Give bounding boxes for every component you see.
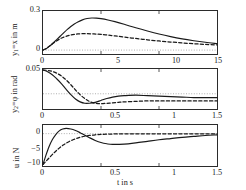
y-tick-bottom-0: 0 xyxy=(16,127,40,136)
y-tick-top-1: 0.3 xyxy=(16,5,40,14)
y-tick-bottom-1: −5 xyxy=(14,144,40,153)
plot-frame-bottom xyxy=(42,124,218,167)
y-axis-label-top-unit: in m xyxy=(10,23,19,38)
x-tick-middle-3: 1.5 xyxy=(204,111,230,120)
plot-canvas-middle xyxy=(43,69,217,109)
x-tick-top-2: 10 xyxy=(168,56,184,65)
y-axis-label-middle-symbol: y xyxy=(10,109,19,113)
y-axis-label-middle: y2=φ in rad xyxy=(10,76,19,113)
x-tick-middle-1: 0.5 xyxy=(102,111,128,120)
plot-frame-top xyxy=(42,10,218,55)
x-tick-bottom-3: 1.5 xyxy=(204,168,230,177)
x-tick-bottom-0: 0 xyxy=(34,168,50,177)
x-axis-label: t in s xyxy=(100,178,150,187)
data-curve-dashed xyxy=(43,70,217,104)
x-tick-middle-2: 1 xyxy=(166,111,182,120)
y-axis-label-middle-equals: =φ xyxy=(10,97,19,106)
plot-frame-middle xyxy=(42,68,218,110)
data-curve-dashed xyxy=(43,134,217,165)
plot-canvas-top xyxy=(43,11,217,54)
y-axis-label-middle-unit: in rad xyxy=(10,76,19,95)
y-tick-bottom-2: −10 xyxy=(12,158,40,167)
y-axis-label-middle-subscript: 2 xyxy=(13,106,19,109)
data-curve-solid xyxy=(43,70,217,103)
data-curve-solid xyxy=(43,18,217,50)
x-tick-top-1: 5 xyxy=(110,56,126,65)
x-tick-top-3: 15 xyxy=(210,56,226,65)
data-curve-dashed xyxy=(43,34,217,50)
x-tick-middle-0: 0 xyxy=(34,111,50,120)
y-tick-top-0: 0 xyxy=(16,44,40,53)
plot-canvas-bottom xyxy=(43,125,217,166)
figure-root: y1=x in m 0.3 0 0 5 10 15 y2=φ in rad 0.… xyxy=(0,0,246,190)
x-tick-bottom-1: 0.5 xyxy=(102,168,128,177)
y-tick-middle-0: 0.05 xyxy=(8,64,40,73)
x-tick-bottom-2: 1 xyxy=(166,168,182,177)
